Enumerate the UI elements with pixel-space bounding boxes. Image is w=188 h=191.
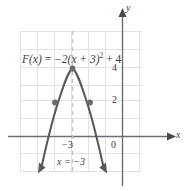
y-tick-label-4: 4 [112,63,117,73]
point-left [52,100,58,106]
y-tick-label-2: 2 [112,95,117,105]
equation-equals: = [42,53,54,65]
parabola-path [42,69,104,168]
vertex-point [70,66,76,72]
equation-body: −2(x + 3) [54,53,100,65]
point-right [87,100,93,106]
x-tick-label-neg3: −3 [62,140,73,150]
y-axis-label: y [126,3,130,13]
axis-of-symmetry-text: x = −3 [57,156,85,167]
equation-function-name: F(x) [22,53,42,65]
equation-label: F(x) = −2(x + 3)2 + 4 [22,54,121,66]
parabola-curve-layer [0,0,188,191]
x-axis-label: x [176,130,180,140]
parabola-graph-figure: F(x) = −2(x + 3)2 + 4 y x 4 2 0 −3 x = −… [0,0,188,191]
axis-of-symmetry-label: x = −3 [57,157,85,167]
origin-label-0: 0 [111,140,116,150]
